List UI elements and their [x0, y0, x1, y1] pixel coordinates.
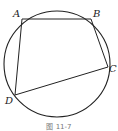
- label-d: D: [4, 95, 13, 106]
- label-b: B: [92, 8, 100, 19]
- cyclic-quadrilateral-diagram: A B C D 图 11-7: [0, 0, 118, 131]
- label-c: C: [109, 63, 117, 74]
- label-a: A: [12, 8, 20, 19]
- quadrilateral-abcd: [15, 19, 108, 95]
- figure-caption: 图 11-7: [46, 123, 71, 131]
